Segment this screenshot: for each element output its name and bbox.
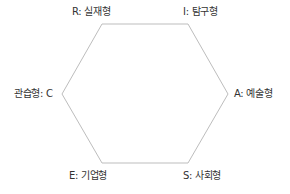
label-investigative: I: 탐구형 [183, 6, 218, 18]
label-conventional: 관습형: C [14, 88, 53, 100]
label-artistic: A: 예술형 [234, 88, 272, 100]
holland-hexagon-diagram: R: 실재형 I: 탐구형 A: 예술형 S: 사회형 E: 기업형 관습형: … [0, 0, 290, 194]
label-social: S: 사회형 [183, 170, 221, 182]
hexagon-outline [62, 24, 228, 163]
label-enterprising: E: 기업형 [69, 170, 107, 182]
label-realistic: R: 실재형 [72, 6, 110, 18]
